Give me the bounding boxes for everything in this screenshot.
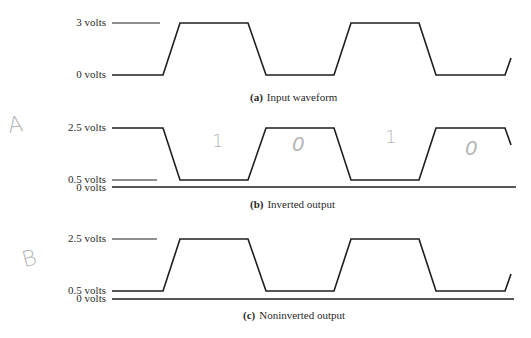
caption-letter-c: (c) (243, 309, 255, 321)
label-2.5-volts-c: 2.5 volts (68, 232, 106, 244)
caption-text-c: Noninverted output (259, 309, 345, 321)
inverted-waveform (112, 128, 511, 180)
label-3-volts: 3 volts (76, 16, 106, 28)
noninverted-waveform (112, 239, 511, 291)
caption-b: (b)Inverted output (250, 198, 335, 210)
label-0-volts-a: 0 volts (76, 68, 106, 80)
caption-letter-b: (b) (250, 198, 263, 210)
caption-a: (a)Input waveform (250, 91, 337, 103)
handwritten-bit-2: 0 (292, 132, 305, 156)
handwritten-bit-4: 0 (465, 136, 478, 160)
input-waveform (112, 23, 511, 75)
label-0-volts-c: 0 volts (76, 292, 106, 304)
handwritten-bit-1: 1 (212, 130, 223, 151)
label-0-volts-b: 0 volts (76, 181, 106, 193)
label-2.5-volts-b: 2.5 volts (68, 121, 106, 133)
handwritten-bit-3: 1 (385, 126, 396, 147)
caption-text-b: Inverted output (267, 198, 335, 210)
caption-letter-a: (a) (250, 91, 263, 103)
caption-text-a: Input waveform (267, 91, 338, 103)
caption-c: (c)Noninverted output (243, 309, 345, 321)
